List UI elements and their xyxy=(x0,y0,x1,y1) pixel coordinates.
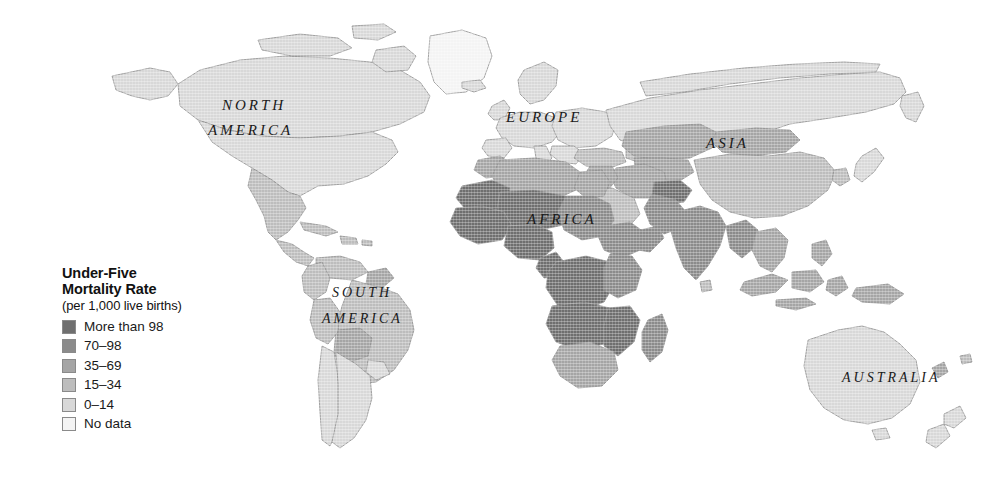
legend-swatch xyxy=(62,339,76,353)
legend-row[interactable]: No data xyxy=(62,415,212,435)
continent-label-africa: AFRICA xyxy=(526,211,597,227)
legend-title-line2: Mortality Rate xyxy=(62,282,212,298)
legend-row[interactable]: 0–14 xyxy=(62,395,212,415)
legend-swatch xyxy=(62,320,76,334)
region-sri-lanka xyxy=(700,280,712,292)
legend-rows: More than 98 70–98 35–69 15–34 0–14 No d… xyxy=(62,317,212,434)
map-legend: Under-Five Mortality Rate (per 1,000 liv… xyxy=(62,266,212,434)
continent-label-australia: AUSTRALIA xyxy=(841,370,941,385)
continent-label-europe: EUROPE xyxy=(505,109,582,125)
legend-label: 15–34 xyxy=(84,378,122,392)
legend-row[interactable]: 15–34 xyxy=(62,376,212,396)
continent-label-south-america: AMERICA xyxy=(321,311,403,326)
region-fiji xyxy=(960,354,972,364)
legend-label: 0–14 xyxy=(84,398,114,412)
legend-title-line1: Under-Five xyxy=(62,266,212,282)
continent-label-asia: ASIA xyxy=(705,135,749,151)
legend-swatch xyxy=(62,378,76,392)
legend-label: 35–69 xyxy=(84,359,122,373)
continent-label-north: NORTH xyxy=(221,97,286,113)
legend-swatch xyxy=(62,417,76,431)
world-map-figure: NORTH AMERICA EUROPE ASIA AFRICA SOUTH A… xyxy=(0,0,1007,493)
legend-swatch xyxy=(62,398,76,412)
legend-row[interactable]: More than 98 xyxy=(62,317,212,337)
legend-row[interactable]: 70–98 xyxy=(62,337,212,357)
legend-label: No data xyxy=(84,417,131,431)
legend-row[interactable]: 35–69 xyxy=(62,356,212,376)
legend-swatch xyxy=(62,359,76,373)
continent-label-north-america: AMERICA xyxy=(207,122,293,138)
region-puerto-rico xyxy=(362,240,372,246)
legend-subtitle: (per 1,000 live births) xyxy=(62,298,212,313)
continent-label-south: SOUTH xyxy=(332,285,392,300)
legend-label: More than 98 xyxy=(84,320,164,334)
legend-label: 70–98 xyxy=(84,339,122,353)
